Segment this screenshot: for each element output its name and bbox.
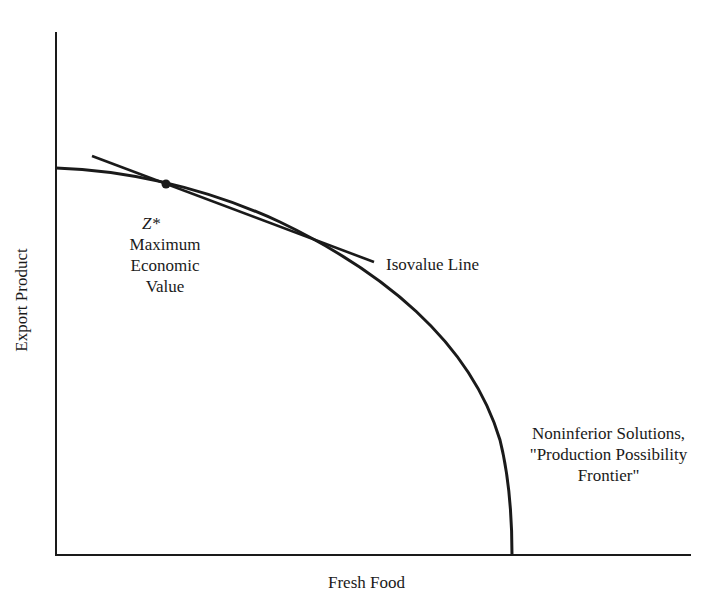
y-axis-label: Export Product xyxy=(12,248,32,351)
diagram-canvas xyxy=(0,0,717,604)
optimal-point-z-star xyxy=(162,180,171,189)
z-star-label: Z* xyxy=(142,213,160,234)
label-line-3: Value xyxy=(110,276,220,297)
frontier-line-3: Frontier" xyxy=(500,465,717,486)
frontier-line-1: Noninferior Solutions, xyxy=(500,423,717,444)
x-axis-label: Fresh Food xyxy=(328,572,405,593)
label-line-1: Maximum xyxy=(110,234,220,255)
max-economic-value-label: Maximum Economic Value xyxy=(110,234,220,297)
isovalue-line-label: Isovalue Line xyxy=(386,254,479,275)
label-line-2: Economic xyxy=(110,255,220,276)
frontier-label: Noninferior Solutions, "Production Possi… xyxy=(500,423,717,486)
frontier-line-2: "Production Possibility xyxy=(500,444,717,465)
production-possibility-frontier xyxy=(56,168,512,555)
